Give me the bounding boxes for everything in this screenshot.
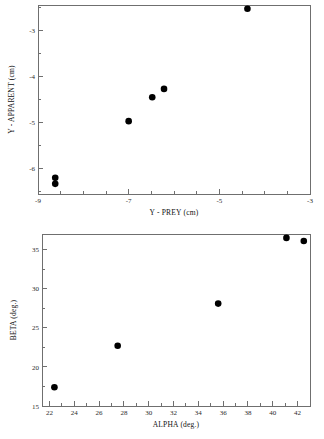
x-tick-label: -5 <box>216 197 222 205</box>
data-point <box>283 235 290 242</box>
top-scatter-plot: -9-7-5-3-3-4-5-6Y - PREY (cm)Y - APPAREN… <box>0 0 324 222</box>
data-point <box>52 175 59 182</box>
x-tick-label: 28 <box>120 409 128 417</box>
x-tick-label: 42 <box>294 409 302 417</box>
data-point <box>52 181 59 188</box>
data-point <box>244 5 251 12</box>
x-tick-label: 36 <box>220 409 228 417</box>
x-axis-title: ALPHA (deg.) <box>153 420 200 429</box>
chart-panel-top: -9-7-5-3-3-4-5-6Y - PREY (cm)Y - APPAREN… <box>0 0 324 222</box>
y-axis-title: BETA (deg.) <box>9 300 18 341</box>
y-axis-title: Y - APPARENT (cm) <box>7 65 16 134</box>
data-point <box>300 238 307 245</box>
bottom-scatter-plot: 22242628303234363840421520253035ALPHA (d… <box>0 222 324 439</box>
y-tick-label: -6 <box>29 165 35 173</box>
y-tick-label: 15 <box>32 403 40 411</box>
x-tick-label: -3 <box>307 197 313 205</box>
scatter-figure: -9-7-5-3-3-4-5-6Y - PREY (cm)Y - APPAREN… <box>0 0 324 439</box>
y-tick-label: -5 <box>29 119 35 127</box>
x-tick-label: 40 <box>269 409 277 417</box>
data-point <box>215 300 222 307</box>
x-tick-label: 22 <box>46 409 54 417</box>
data-point <box>51 384 58 391</box>
y-tick-label: 35 <box>32 246 40 254</box>
y-tick-label: 25 <box>32 324 40 332</box>
data-point <box>114 343 121 350</box>
x-tick-label: -7 <box>126 197 132 205</box>
plot-frame <box>42 234 310 406</box>
x-tick-label: 30 <box>145 409 153 417</box>
y-tick-label: 30 <box>32 285 40 293</box>
data-point <box>149 94 156 101</box>
plot-frame <box>38 5 310 194</box>
y-tick-label: -4 <box>29 73 35 81</box>
chart-panel-bottom: 22242628303234363840421520253035ALPHA (d… <box>0 222 324 439</box>
data-point <box>125 118 132 125</box>
x-tick-label: 38 <box>244 409 252 417</box>
x-tick-label: 34 <box>195 409 203 417</box>
x-tick-label: 26 <box>96 409 104 417</box>
data-point <box>161 86 168 93</box>
x-axis-title: Y - PREY (cm) <box>150 208 199 217</box>
y-tick-label: -3 <box>29 27 35 35</box>
x-tick-label: 24 <box>71 409 79 417</box>
x-tick-label: 32 <box>170 409 178 417</box>
y-tick-label: 20 <box>32 364 40 372</box>
x-tick-label: -9 <box>35 197 41 205</box>
